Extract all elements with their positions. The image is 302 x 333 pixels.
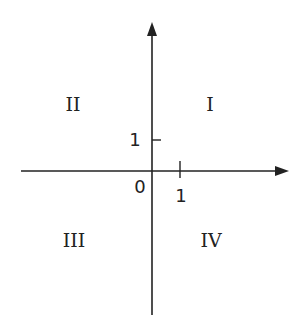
quadrant-ii-label: II	[65, 95, 80, 114]
origin-label: 0	[134, 178, 145, 196]
coordinate-plane-diagram: II I III IV 1 0 1	[0, 0, 302, 333]
y-tick-label: 1	[129, 131, 140, 149]
x-tick-label: 1	[175, 187, 186, 205]
x-axis-arrow-icon	[275, 166, 289, 176]
quadrant-i-label: I	[206, 95, 214, 114]
quadrant-iii-label: III	[63, 231, 86, 250]
quadrant-iv-label: IV	[200, 231, 221, 250]
y-axis-arrow-icon	[147, 22, 157, 36]
axes-graphic	[0, 0, 302, 333]
